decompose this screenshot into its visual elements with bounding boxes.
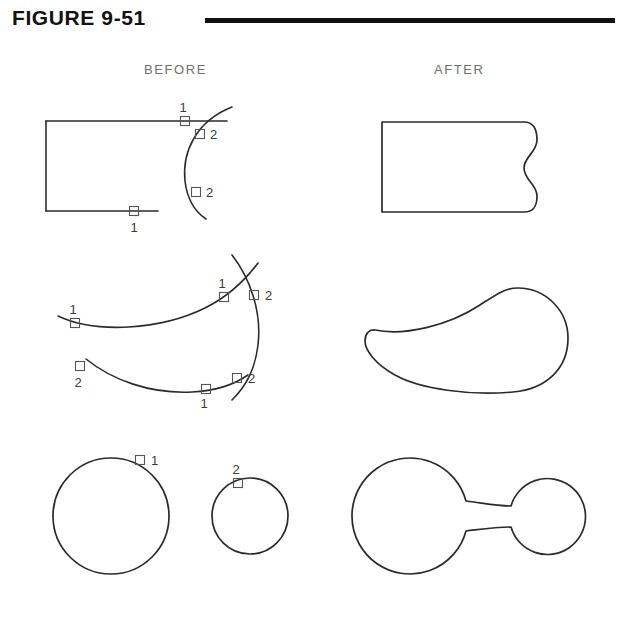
- large-circle: [53, 458, 169, 574]
- row-2-before-markers: 1 1 2 2 1 2: [69, 276, 272, 411]
- lower-arc: [86, 359, 248, 392]
- marker-label: 1: [151, 453, 158, 468]
- marker-label: 2: [210, 127, 217, 142]
- figure-drawing: 1 2 2 1 1 1 2: [0, 0, 627, 620]
- small-circle: [212, 478, 288, 554]
- figure-page: FIGURE 9-51 BEFORE AFTER 1 2 2 1: [0, 0, 627, 620]
- row-3-after-drawing: [352, 458, 586, 574]
- crescent-shape: [365, 288, 568, 393]
- marker-label: 2: [265, 288, 272, 303]
- marker-label: 2: [232, 462, 239, 477]
- point-marker: [202, 385, 211, 394]
- row-1-before-drawing: [46, 107, 232, 219]
- row-3-before-markers: 1 2: [136, 453, 243, 488]
- marker-label: 1: [69, 302, 76, 317]
- marker-label: 1: [130, 220, 137, 235]
- joined-circles-shape: [352, 458, 586, 574]
- marker-label: 1: [179, 100, 186, 115]
- row-1-after-drawing: [382, 122, 537, 212]
- cutting-arc: [185, 107, 232, 219]
- point-marker: [192, 188, 201, 197]
- marker-label: 1: [218, 276, 225, 291]
- marker-label: 2: [206, 185, 213, 200]
- row-3-before-drawing: [53, 458, 288, 574]
- point-marker: [76, 362, 85, 371]
- trimmed-rectangle-shape: [382, 122, 537, 212]
- marker-label: 2: [248, 371, 255, 386]
- marker-label: 1: [200, 396, 207, 411]
- row-2-after-drawing: [365, 288, 568, 393]
- row-2-before-drawing: [58, 255, 259, 400]
- marker-label: 2: [74, 375, 81, 390]
